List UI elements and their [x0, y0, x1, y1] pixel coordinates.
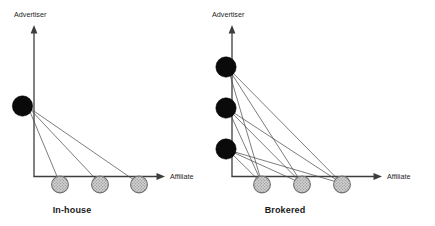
in-house-affiliate-nodes [52, 176, 148, 193]
brokered-edges [228, 68, 342, 184]
affiliate-node [294, 176, 311, 193]
x-axis-arrow-icon [374, 173, 383, 180]
brokered-affiliate-nodes [254, 176, 351, 193]
brokered-y-axis-label: Advertiser [212, 10, 245, 19]
y-axis-arrow-icon [229, 25, 236, 34]
network-diagram-figure: Advertiser Affiliate In-house [0, 0, 435, 226]
affiliate-node [254, 176, 271, 193]
in-house-y-axis [31, 25, 38, 177]
diagram-canvas: Advertiser Affiliate In-house [0, 0, 435, 226]
affiliate-node [131, 176, 148, 193]
in-house-x-axis-label: Affiliate [170, 172, 193, 181]
advertiser-node [12, 96, 32, 116]
in-house-y-axis-label: Advertiser [14, 10, 47, 19]
advertiser-node [216, 98, 236, 118]
x-axis-arrow-icon [157, 173, 166, 180]
advertiser-node [216, 139, 236, 159]
brokered-caption: Brokered [265, 205, 306, 215]
panel-in-house: Advertiser Affiliate In-house [12, 10, 193, 215]
brokered-x-axis-label: Affiliate [387, 172, 410, 181]
affiliate-node [52, 176, 69, 193]
y-axis-arrow-icon [31, 25, 38, 34]
affiliate-node [92, 176, 109, 193]
in-house-edges [28, 107, 139, 184]
panel-brokered: Advertiser Affiliate Brokered [212, 10, 410, 215]
in-house-caption: In-house [53, 205, 92, 215]
advertiser-node [216, 57, 236, 77]
affiliate-node [334, 176, 351, 193]
brokered-advertiser-nodes [216, 57, 236, 159]
